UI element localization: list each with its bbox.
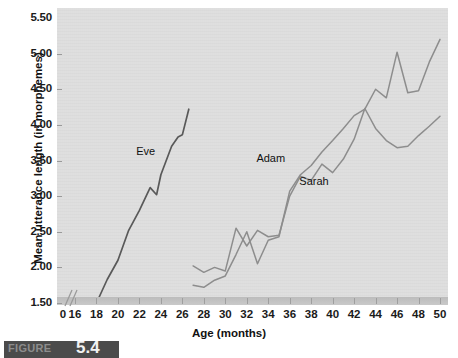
- x-tick-mark: [397, 298, 398, 304]
- y-tick-mark: [57, 161, 62, 162]
- x-tick-mark: [290, 298, 291, 304]
- y-tick-label: 3.50: [8, 154, 52, 166]
- x-tick-mark: [333, 298, 334, 304]
- x-tick-mark: [311, 298, 312, 304]
- y-tick-label: 2.00: [8, 260, 52, 272]
- figure-caption-label: FIGURE: [8, 342, 51, 354]
- x-tick-mark: [376, 298, 377, 304]
- x-tick-mark: [247, 298, 248, 304]
- x-tick-mark: [268, 298, 269, 304]
- y-tick-label: 5.50: [8, 11, 52, 23]
- x-tick-mark: [204, 298, 205, 304]
- figure-caption-bar: FIGURE 5.4: [4, 341, 119, 358]
- series-label-eve: Eve: [136, 145, 155, 157]
- y-tick-label: 2.50: [8, 225, 52, 237]
- series-lines: [57, 8, 448, 305]
- y-tick-mark: [57, 267, 62, 268]
- series-line-sarah: [193, 108, 440, 272]
- x-tick-mark: [161, 298, 162, 304]
- x-tick-mark: [419, 298, 420, 304]
- x-tick-label: 50: [427, 308, 453, 320]
- x-tick-mark: [182, 298, 183, 304]
- x-tick-mark: [96, 298, 97, 304]
- x-tick-mark: [440, 298, 441, 304]
- x-tick-mark: [225, 298, 226, 304]
- y-tick-mark: [57, 125, 62, 126]
- y-tick-label: 5.00: [8, 47, 52, 59]
- y-tick-mark: [57, 232, 62, 233]
- x-tick-mark: [118, 298, 119, 304]
- x-tick-mark: [139, 298, 140, 304]
- y-tick-label: 3.00: [8, 189, 52, 201]
- x-tick-mark: [354, 298, 355, 304]
- y-tick-label: 4.00: [8, 118, 52, 130]
- axis-break-icon: [61, 288, 83, 310]
- series-line-eve: [96, 109, 188, 303]
- plot-area: [57, 8, 448, 305]
- y-tick-mark: [57, 89, 62, 90]
- x-axis-title: Age (months): [0, 327, 458, 339]
- series-label-sarah: Sarah: [299, 175, 328, 187]
- y-tick-mark: [57, 54, 62, 55]
- x-axis-baseline: [57, 297, 448, 305]
- y-tick-label: 4.50: [8, 82, 52, 94]
- figure-caption-number: 5.4: [76, 341, 100, 358]
- y-tick-mark: [57, 196, 62, 197]
- y-tick-label: 1.50: [8, 296, 52, 308]
- series-label-adam: Adam: [256, 152, 285, 164]
